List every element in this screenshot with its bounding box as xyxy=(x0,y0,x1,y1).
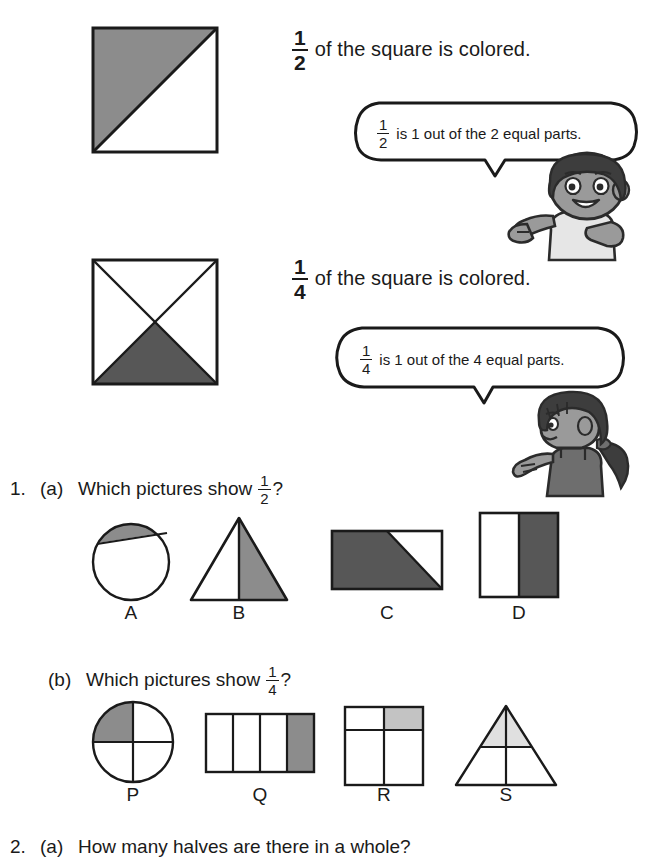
option-d-label: D xyxy=(478,602,560,624)
question-1a-prompt: Which pictures show xyxy=(78,478,252,500)
speech-bubble-2-text: is 1 out of the 4 equal parts. xyxy=(379,351,564,368)
option-s-label: S xyxy=(452,784,560,806)
speech-bubble-1-text: is 1 out of the 2 equal parts. xyxy=(396,125,581,142)
question-1b-question-mark: ? xyxy=(281,669,292,691)
question-2a-prompt: How many halves are there in a whole? xyxy=(78,836,411,858)
example-1-square-half xyxy=(91,26,219,154)
example-1-statement: 1 2 of the square is colored. xyxy=(292,26,531,72)
question-2-number: 2. xyxy=(10,836,40,858)
bubble-fraction-one-quarter: 1 4 xyxy=(360,343,372,376)
option-b-label: B xyxy=(188,602,290,624)
option-d-shape[interactable] xyxy=(478,511,560,599)
question-1b-letter: (b) xyxy=(48,669,86,691)
question-1b-fraction: 1 4 xyxy=(266,664,278,697)
question-1-number: 1. xyxy=(10,478,40,500)
option-p-shape[interactable] xyxy=(91,700,175,784)
worksheet-page: 1 2 of the square is colored. 1 2 is 1 o… xyxy=(0,0,649,865)
option-b-shape[interactable] xyxy=(188,515,290,603)
question-1a-line: 1. (a) Which pictures show 1 2 ? xyxy=(10,472,283,505)
fraction-one-quarter: 1 4 xyxy=(292,256,308,302)
bubble-fraction-one-half: 1 2 xyxy=(377,117,389,150)
option-q-shape[interactable] xyxy=(204,712,316,774)
speech-bubble-1-content: 1 2 is 1 out of the 2 equal parts. xyxy=(377,117,581,150)
girl-character-illustration xyxy=(505,390,641,496)
question-1a-fraction: 1 2 xyxy=(258,473,270,506)
option-c-label: C xyxy=(330,602,444,624)
option-p-label: P xyxy=(91,784,175,806)
option-a-label: A xyxy=(91,602,171,624)
option-c-shape[interactable] xyxy=(330,529,444,591)
boy-character-illustration xyxy=(503,152,643,260)
question-1b-line: (b) Which pictures show 1 4 ? xyxy=(48,663,291,696)
option-r-shape[interactable] xyxy=(343,705,425,787)
example-1-statement-text: of the square is colored. xyxy=(315,38,531,61)
question-1a-letter: (a) xyxy=(40,478,78,500)
example-2-square-quarter xyxy=(91,258,219,386)
question-1a-question-mark: ? xyxy=(273,478,284,500)
question-2a-letter: (a) xyxy=(40,836,78,858)
speech-bubble-2-content: 1 4 is 1 out of the 4 equal parts. xyxy=(360,343,564,376)
question-1b-prompt: Which pictures show xyxy=(86,669,260,691)
example-2-statement: 1 4 of the square is colored. xyxy=(292,255,531,301)
option-s-shape[interactable] xyxy=(452,703,560,787)
option-q-label: Q xyxy=(204,784,316,806)
example-2-statement-text: of the square is colored. xyxy=(315,267,531,290)
question-2a-line: 2. (a) How many halves are there in a wh… xyxy=(10,836,411,858)
fraction-one-half: 1 2 xyxy=(292,27,308,73)
option-r-label: R xyxy=(343,784,425,806)
option-a-shape[interactable] xyxy=(91,522,171,602)
